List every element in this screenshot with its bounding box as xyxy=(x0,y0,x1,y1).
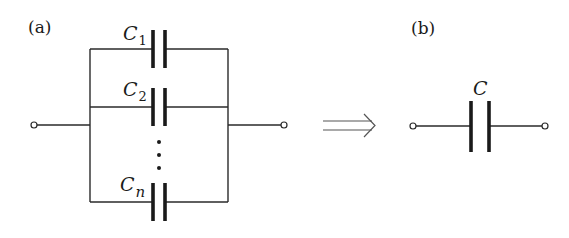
branch-cn: Cn xyxy=(90,173,228,221)
capacitor-c1-label: C1 xyxy=(123,22,147,48)
left-terminal-b xyxy=(410,123,416,129)
panel-a-circuit: C1 C2 Cn xyxy=(31,22,287,221)
right-terminal-a xyxy=(281,122,287,128)
branch-c2: C2 xyxy=(90,78,228,126)
equivalence-arrow-icon xyxy=(323,114,375,137)
capacitor-cn-label: Cn xyxy=(120,173,145,201)
vertical-ellipsis xyxy=(157,140,161,170)
left-terminal-a xyxy=(31,122,37,128)
right-terminal-b xyxy=(542,123,548,129)
capacitor-c2-label: C2 xyxy=(123,78,147,104)
parallel-capacitor-diagram: (a) C1 C2 xyxy=(0,0,569,238)
panel-b-circuit: C xyxy=(410,77,548,152)
panel-a-label: (a) xyxy=(28,17,51,37)
branch-c1: C1 xyxy=(90,22,228,68)
capacitor-c-label: C xyxy=(473,77,488,99)
panel-b-label: (b) xyxy=(411,18,435,38)
